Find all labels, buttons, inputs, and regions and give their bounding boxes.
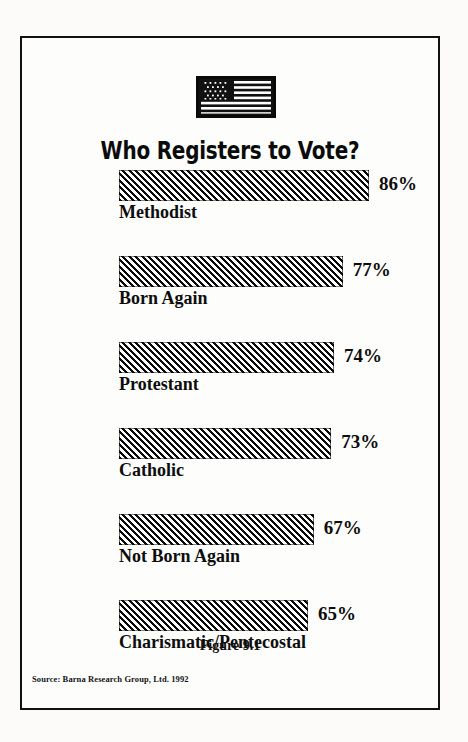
bar-value-label: 86% [379, 173, 417, 195]
bar-category-label: Methodist [119, 201, 197, 223]
bar-value-label: 73% [341, 431, 379, 453]
bar-row: 86% Methodist [22, 170, 438, 201]
bar-value-label: 65% [318, 603, 356, 625]
us-flag-icon [196, 76, 276, 118]
chart-title: Who Registers to Vote? [64, 136, 397, 165]
figure-caption: Figure 9.1 [22, 638, 438, 654]
bar-value-label: 67% [324, 517, 362, 539]
bar-row: 73% Catholic [22, 428, 438, 459]
bar-charismatic-pentecostal [119, 600, 308, 631]
us-flag-graphic [196, 76, 276, 118]
bar-category-label: Catholic [119, 459, 184, 481]
source-note: Source: Barna Research Group, Ltd. 1992 [32, 674, 189, 684]
bar-row: 77% Born Again [22, 256, 438, 287]
page-background: Who Registers to Vote? 86% Methodist 77%… [0, 0, 468, 742]
bar-methodist [119, 170, 369, 201]
figure-frame: Who Registers to Vote? 86% Methodist 77%… [20, 36, 440, 710]
bar-category-label: Born Again [119, 287, 208, 309]
bar-category-label: Protestant [119, 373, 199, 395]
bar-value-label: 74% [344, 345, 382, 367]
bar-chart: 86% Methodist 77% Born Again 74% Protest… [22, 170, 438, 602]
bar-born-again [119, 256, 343, 287]
bar-protestant [119, 342, 334, 373]
bar-catholic [119, 428, 331, 459]
bar-row: 67% Not Born Again [22, 514, 438, 545]
bar-row: 74% Protestant [22, 342, 438, 373]
bar-row: 65% Charismatic/Pentecostal [22, 600, 438, 631]
bar-value-label: 77% [353, 259, 391, 281]
bar-category-label: Not Born Again [119, 545, 240, 567]
bar-not-born-again [119, 514, 314, 545]
